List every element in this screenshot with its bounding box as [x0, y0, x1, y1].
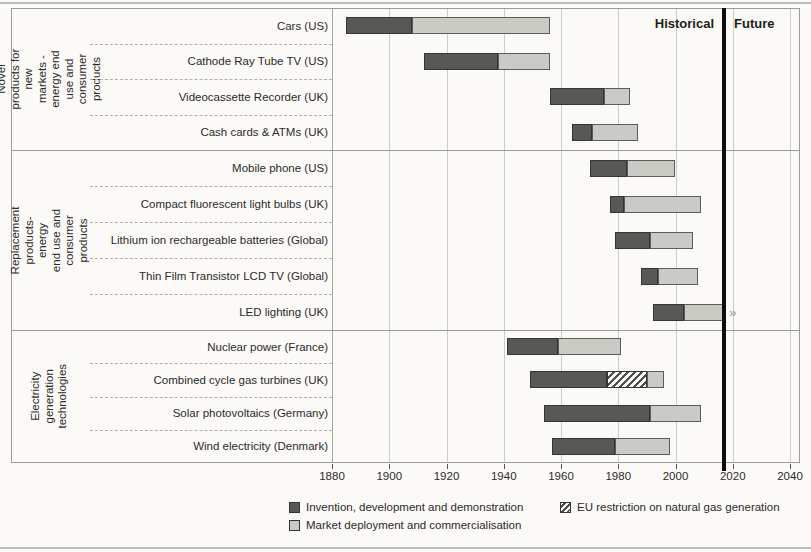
top-rule [0, 2, 811, 4]
row-separator [90, 363, 332, 364]
row-label: Thin Film Transistor LCD TV (Global) [70, 269, 328, 283]
bar-segment-deployment [658, 268, 698, 285]
row-label: Wind electricity (Denmark) [70, 439, 328, 453]
axis-tick-1900 [389, 464, 390, 469]
row-separator [90, 115, 332, 116]
bar-segment-invention [653, 304, 684, 321]
axis-tick-label-2000: 2000 [663, 470, 689, 482]
axis-tick-label-2020: 2020 [720, 470, 746, 482]
axis-tick-2020 [733, 464, 734, 469]
bar-segment-deployment [650, 232, 693, 249]
row-label: Solar photovoltaics (Germany) [70, 406, 328, 420]
row-separator [90, 44, 332, 45]
ongoing-arrow-marker: » [729, 304, 736, 321]
row-label: Combined cycle gas turbines (UK) [70, 373, 328, 387]
bar-segment-invention [544, 405, 650, 422]
bar-segment-invention [552, 438, 615, 455]
row-separator [90, 397, 332, 398]
historical-future-divider-line [722, 8, 726, 471]
axis-tick-label-1960: 1960 [548, 470, 574, 482]
technology-innovation-timeline-chart: Novel products for new markets - energy … [0, 0, 811, 552]
row-separator [90, 222, 332, 223]
bar-segment-restriction [607, 371, 647, 388]
legend-label-invention: Invention, development and demonstration [306, 501, 523, 513]
legend-item-restriction: EU restriction on natural gas generation [560, 501, 780, 513]
axis-tick-1880 [332, 464, 333, 469]
bar-segment-deployment [684, 304, 724, 321]
row-separator [90, 294, 332, 295]
historical-label: Historical [655, 16, 714, 31]
bar-segment-invention [507, 338, 559, 355]
axis-tick-1980 [618, 464, 619, 469]
bar-segment-invention [550, 88, 604, 105]
bar-segment-invention [590, 160, 627, 177]
row-label: Lithium ion rechargeable batteries (Glob… [70, 233, 328, 247]
legend-label-deployment: Market deployment and commercialisation [306, 519, 521, 531]
bar-segment-invention [641, 268, 658, 285]
row-separator [90, 186, 332, 187]
axis-tick-label-1940: 1940 [491, 470, 517, 482]
row-label: Mobile phone (US) [70, 161, 328, 175]
axis-tick-1940 [504, 464, 505, 469]
future-label: Future [734, 16, 774, 31]
axis-tick-1960 [561, 464, 562, 469]
row-separator [90, 430, 332, 431]
row-label: Compact fluorescent light bulbs (UK) [70, 197, 328, 211]
row-label: LED lighting (UK) [70, 305, 328, 319]
bar-segment-deployment [627, 160, 676, 177]
axis-tick-1920 [447, 464, 448, 469]
row-label: Cash cards & ATMs (UK) [70, 125, 328, 139]
group-separator-2 [11, 330, 800, 331]
axis-tick-2040 [790, 464, 791, 469]
legend-swatch-invention-icon [289, 502, 300, 513]
axis-tick-label-1980: 1980 [605, 470, 631, 482]
legend-item-deployment: Market deployment and commercialisation [289, 519, 521, 531]
legend-swatch-restriction-icon [560, 502, 571, 513]
axis-tick-2000 [676, 464, 677, 469]
bar-segment-deployment [592, 124, 638, 141]
bar-segment-invention [615, 232, 649, 249]
bar-segment-invention [530, 371, 607, 388]
bar-segment-deployment [650, 405, 702, 422]
legend-swatch-deployment-icon [289, 520, 300, 531]
row-separator [90, 79, 332, 80]
legend-item-invention: Invention, development and demonstration [289, 501, 523, 513]
bar-segment-deployment [604, 88, 630, 105]
legend-label-restriction: EU restriction on natural gas generation [577, 501, 780, 513]
axis-tick-label-1880: 1880 [319, 470, 345, 482]
bar-segment-deployment [498, 53, 550, 70]
row-label: Cars (US) [70, 19, 328, 33]
bar-segment-deployment [412, 17, 549, 34]
group-label-2: Electricity generation technologies [29, 361, 70, 433]
row-label: Cathode Ray Tube TV (US) [70, 54, 328, 68]
row-label: Nuclear power (France) [70, 340, 328, 354]
bar-segment-deployment [615, 438, 669, 455]
row-separator [90, 258, 332, 259]
group-separator-1 [11, 150, 800, 151]
bar-segment-invention [610, 196, 624, 213]
bar-segment-invention [424, 53, 498, 70]
row-label: Videocassette Recorder (UK) [70, 90, 328, 104]
bottom-rule [0, 547, 811, 549]
axis-tick-label-1900: 1900 [376, 470, 402, 482]
axis-tick-label-2040: 2040 [777, 470, 803, 482]
bar-segment-invention [572, 124, 592, 141]
bar-segment-deployment [647, 371, 664, 388]
bar-segment-deployment [624, 196, 701, 213]
axis-tick-label-1920: 1920 [434, 470, 460, 482]
bar-segment-invention [346, 17, 412, 34]
bar-segment-deployment [558, 338, 621, 355]
